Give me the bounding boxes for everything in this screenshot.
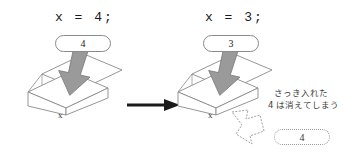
value-pill-4-incoming: 4: [55, 35, 111, 52]
value-pill-text: 3: [229, 38, 234, 49]
annotation-line-1: さっき入れた: [274, 88, 328, 99]
code-label-before: x = 4;: [55, 10, 114, 25]
box-label-x-after: x: [208, 110, 213, 120]
value-pill-4-discarded: 4: [274, 129, 330, 145]
value-pill-text: 4: [300, 132, 305, 143]
variable-box-before: [22, 52, 132, 117]
code-label-after: x = 3;: [205, 10, 264, 25]
value-pill-3-incoming: 3: [203, 35, 259, 52]
annotation-line-2: 4 は消えてしまう: [268, 100, 339, 111]
value-pill-text: 4: [81, 38, 86, 49]
box-label-x-before: x: [58, 110, 63, 120]
discard-outline-arrow-icon: [228, 106, 270, 146]
diagram-canvas: x = 4; 4 x x = 3; 3: [0, 0, 360, 152]
